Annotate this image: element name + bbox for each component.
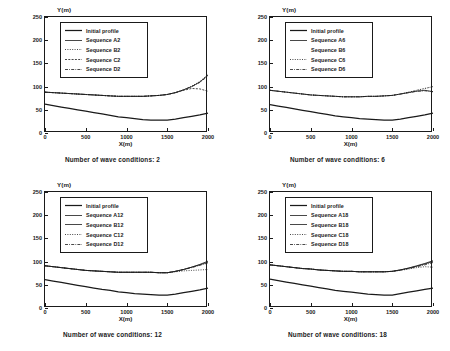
legend-line-swatch xyxy=(289,211,308,220)
legend-item: Sequence A6 xyxy=(289,36,370,46)
legend-item: Sequence A2 xyxy=(64,36,145,46)
y-tick-label: 0 xyxy=(264,130,267,136)
y-axis-label: Y(m) xyxy=(282,6,296,13)
x-tick-mark xyxy=(433,303,434,306)
legend-label: Sequence C2 xyxy=(86,57,120,63)
panel-caption: Number of wave conditions: 18 xyxy=(225,331,450,338)
series-line-1 xyxy=(270,105,433,120)
legend-line-swatch xyxy=(64,211,83,220)
series-line-1 xyxy=(45,104,208,120)
legend-item: Sequence D18 xyxy=(289,239,370,249)
chart-panel-4: Y(m)0501001502002500500100015002000Initi… xyxy=(225,175,450,350)
legend-line-swatch xyxy=(64,45,83,54)
legend-item: Sequence C2 xyxy=(64,55,145,65)
legend-label: Sequence C12 xyxy=(86,232,123,238)
panel-caption: Number of wave conditions: 6 xyxy=(225,156,450,163)
figure-panel-grid: Y(m)0501001502002500500100015002000Initi… xyxy=(0,0,450,351)
legend-item: Initial profile xyxy=(64,26,145,36)
legend-label: Sequence B18 xyxy=(311,222,348,228)
legend-line-swatch xyxy=(289,230,308,239)
y-tick-label: 200 xyxy=(33,37,42,43)
legend-item: Sequence D6 xyxy=(289,64,370,74)
y-tick-label: 0 xyxy=(39,130,42,136)
series-line-5 xyxy=(45,263,208,273)
legend-item: Sequence B18 xyxy=(289,220,370,230)
y-axis-label: Y(m) xyxy=(57,6,71,13)
y-tick-label: 0 xyxy=(264,305,267,311)
y-tick-label: 100 xyxy=(258,84,267,90)
legend-item: Initial profile xyxy=(64,201,145,211)
legend-line-swatch xyxy=(64,201,83,210)
y-tick-label: 150 xyxy=(33,60,42,66)
series-line-3 xyxy=(45,262,208,273)
y-tick-label: 100 xyxy=(33,84,42,90)
legend-item: Sequence A18 xyxy=(289,211,370,221)
legend-label: Sequence A12 xyxy=(86,212,123,218)
series-line-2 xyxy=(270,261,433,272)
legend-item: Sequence C18 xyxy=(289,230,370,240)
y-tick-label: 50 xyxy=(36,107,42,113)
legend-line-swatch xyxy=(289,240,308,249)
y-tick-label: 0 xyxy=(39,305,42,311)
series-line-5 xyxy=(270,263,433,272)
legend-label: Sequence D6 xyxy=(311,66,345,72)
chart-legend: Initial profileSequence A18Sequence B18S… xyxy=(285,197,373,253)
chart-legend: Initial profileSequence A6Sequence B6Seq… xyxy=(285,22,373,78)
series-line-4 xyxy=(270,87,433,97)
legend-label: Sequence D12 xyxy=(86,241,123,247)
legend-item: Sequence C6 xyxy=(289,55,370,65)
y-axis-label: Y(m) xyxy=(282,181,296,188)
legend-item: Sequence C12 xyxy=(64,230,145,240)
series-line-1 xyxy=(45,280,208,295)
x-tick-mark xyxy=(208,128,209,131)
legend-line-swatch xyxy=(289,201,308,210)
legend-line-swatch xyxy=(289,65,308,74)
x-axis-label: X(m) xyxy=(44,315,207,322)
legend-label: Sequence D18 xyxy=(311,241,348,247)
legend-item: Sequence A12 xyxy=(64,211,145,221)
legend-line-swatch xyxy=(289,55,308,64)
chart-legend: Initial profileSequence A2Sequence B2Seq… xyxy=(60,22,148,78)
y-tick-label: 250 xyxy=(33,189,42,195)
legend-label: Sequence A6 xyxy=(311,37,345,43)
y-axis-label: Y(m) xyxy=(57,181,71,188)
series-line-2 xyxy=(270,90,433,97)
legend-label: Sequence C6 xyxy=(311,57,345,63)
legend-line-swatch xyxy=(64,36,83,45)
x-tick-mark xyxy=(433,128,434,131)
legend-line-swatch xyxy=(64,220,83,229)
y-tick-label: 200 xyxy=(33,212,42,218)
y-tick-label: 250 xyxy=(33,14,42,20)
legend-label: Initial profile xyxy=(86,203,119,209)
legend-label: Sequence B12 xyxy=(86,222,123,228)
legend-line-swatch xyxy=(289,26,308,35)
legend-line-swatch xyxy=(64,65,83,74)
y-tick-label: 250 xyxy=(258,189,267,195)
legend-line-swatch xyxy=(64,55,83,64)
legend-label: Initial profile xyxy=(311,28,344,34)
legend-item: Sequence B12 xyxy=(64,220,145,230)
legend-item: Sequence B2 xyxy=(64,45,145,55)
legend-label: Initial profile xyxy=(86,28,119,34)
y-tick-label: 50 xyxy=(36,282,42,288)
legend-item: Sequence D12 xyxy=(64,239,145,249)
x-axis-label: X(m) xyxy=(44,140,207,147)
x-axis-label: X(m) xyxy=(269,315,432,322)
legend-item: Initial profile xyxy=(289,201,370,211)
y-tick-label: 50 xyxy=(261,107,267,113)
legend-label: Sequence A18 xyxy=(311,212,348,218)
panel-caption: Number of wave conditions: 12 xyxy=(0,331,225,338)
legend-line-swatch xyxy=(289,45,308,54)
legend-label: Sequence B2 xyxy=(86,47,120,53)
panel-caption: Number of wave conditions: 2 xyxy=(0,156,225,163)
chart-panel-1: Y(m)0501001502002500500100015002000Initi… xyxy=(0,0,225,175)
legend-line-swatch xyxy=(289,36,308,45)
legend-label: Sequence A2 xyxy=(86,37,120,43)
series-line-5 xyxy=(270,90,433,97)
legend-line-swatch xyxy=(64,26,83,35)
legend-line-swatch xyxy=(64,230,83,239)
chart-panel-2: Y(m)0501001502002500500100015002000Initi… xyxy=(225,0,450,175)
y-tick-label: 250 xyxy=(258,14,267,20)
y-tick-label: 150 xyxy=(258,60,267,66)
y-tick-label: 150 xyxy=(33,235,42,241)
